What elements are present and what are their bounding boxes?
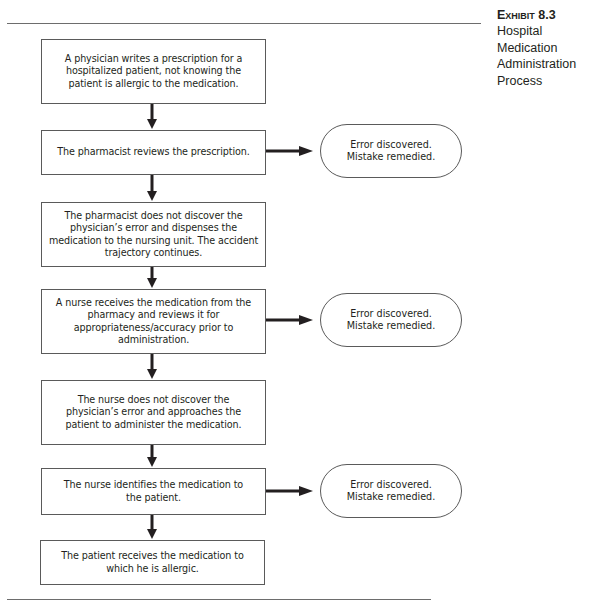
step-nurse-misses-error: The nurse does not discover the physicia… — [41, 380, 266, 445]
outcome-error-discovered: Error discovered. Mistake remedied. — [320, 293, 462, 347]
arrow-down-icon — [147, 267, 157, 288]
bottom-rule — [7, 599, 431, 600]
step-nurse-identifies-medication: The nurse identifies the medication to t… — [41, 468, 266, 515]
outcome-text: Error discovered. Mistake remedied. — [347, 308, 435, 333]
arrow-right-icon — [266, 315, 313, 325]
arrow-down-icon — [147, 445, 157, 467]
outcome-error-discovered: Error discovered. Mistake remedied. — [320, 464, 462, 518]
step-pharmacist-misses-error: The pharmacist does not discover the phy… — [41, 202, 266, 267]
outcome-text: Error discovered. Mistake remedied. — [347, 479, 435, 504]
step-nurse-receives-medication: A nurse receives the medication from the… — [41, 289, 266, 354]
arrow-down-icon — [147, 175, 157, 201]
arrow-down-icon — [147, 104, 157, 129]
exhibit-label: Exhibit 8.3 — [497, 7, 598, 23]
exhibit-title-line: Administration — [497, 56, 598, 73]
step-text: A physician writes a prescription for a … — [65, 53, 243, 90]
step-text: The nurse does not discover the physicia… — [66, 394, 242, 431]
arrow-right-icon — [266, 146, 313, 156]
step-text: A nurse receives the medication from the… — [56, 297, 251, 347]
step-patient-receives-medication: The patient receives the medication to w… — [40, 540, 265, 585]
step-physician-prescribes: A physician writes a prescription for a … — [41, 39, 266, 104]
exhibit-title-line: Process — [497, 73, 598, 90]
outcome-text: Error discovered. Mistake remedied. — [347, 139, 435, 164]
step-text: The patient receives the medication to w… — [61, 550, 243, 575]
top-rule — [7, 23, 481, 24]
step-text: The pharmacist does not discover the phy… — [49, 210, 258, 260]
exhibit-title-line: Medication — [497, 40, 598, 57]
step-text: The pharmacist reviews the prescription. — [57, 146, 249, 158]
step-text: The nurse identifies the medication to t… — [64, 479, 243, 504]
arrow-right-icon — [266, 486, 313, 496]
outcome-error-discovered: Error discovered. Mistake remedied. — [320, 124, 462, 178]
arrow-down-icon — [147, 354, 157, 379]
exhibit-title-line: Hospital — [497, 23, 598, 40]
exhibit-caption: Exhibit 8.3 Hospital Medication Administ… — [497, 7, 598, 89]
step-pharmacist-reviews: The pharmacist reviews the prescription. — [41, 130, 266, 175]
arrow-down-icon — [147, 515, 157, 539]
